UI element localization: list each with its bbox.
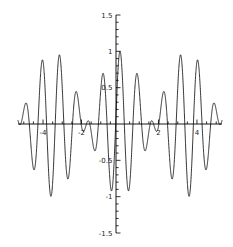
chart-canvas: -4-224 -1.5-1-0.50.511.5: [0, 0, 233, 247]
y-tick-label: 1.5: [101, 12, 112, 20]
y-tick-label: -1.5: [99, 230, 113, 238]
axis-lines: [18, 15, 222, 233]
y-tick-label: 0.5: [101, 84, 112, 92]
y-axis-tick-labels: -1.5-1-0.50.511.5: [99, 12, 113, 238]
y-tick-label: -0.5: [99, 157, 113, 165]
x-tick-label: -4: [40, 129, 48, 137]
x-tick-label: -2: [78, 129, 85, 137]
x-axis-ticks: [24, 120, 216, 125]
x-tick-label: 4: [195, 129, 200, 137]
y-tick-label: -1: [106, 193, 113, 201]
x-tick-label: 2: [156, 129, 160, 137]
y-tick-label: 1: [108, 48, 112, 56]
plot-container: -4-224 -1.5-1-0.50.511.5: [0, 0, 233, 247]
